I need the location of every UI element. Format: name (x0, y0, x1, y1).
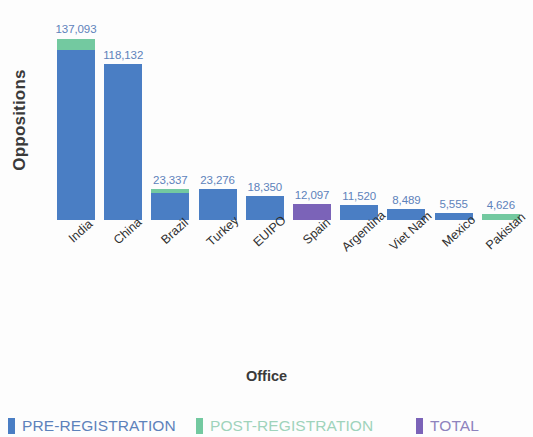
legend-item-pre[interactable]: PRE-REGISTRATION (8, 414, 176, 437)
x-tick-viet-nam: Viet Nam (387, 222, 425, 272)
x-tick-china: China (104, 222, 142, 272)
x-tick-label: Spain (300, 215, 333, 247)
chart-page: Oppositions 137,093118,13223,33723,27618… (0, 0, 533, 437)
x-tick-pakistan: Pakistan (482, 222, 520, 272)
y-axis-title: Oppositions (6, 45, 34, 195)
chart-legend: PRE-REGISTRATIONPOST-REGISTRATIONTOTAL (0, 414, 533, 437)
bar-segment-pre (151, 193, 189, 220)
bar-value-label: 4,626 (466, 199, 533, 211)
bar-mexico[interactable]: 5,555 (435, 8, 473, 220)
x-tick-india: India (57, 222, 95, 272)
legend-label: POST-REGISTRATION (210, 417, 373, 435)
bar-segment-pre (57, 50, 95, 220)
bar-value-label: 118,132 (88, 49, 158, 61)
x-tick-mexico: Mexico (435, 222, 473, 272)
legend-swatch-icon (416, 418, 423, 434)
x-tick-brazil: Brazil (151, 222, 189, 272)
legend-swatch-icon (8, 418, 15, 434)
bar-value-label: 137,093 (41, 23, 111, 35)
legend-label: PRE-REGISTRATION (22, 417, 176, 435)
bar-viet-nam[interactable]: 8,489 (387, 8, 425, 220)
bar-stack (104, 64, 142, 220)
x-tick-argentina: Argentina (340, 222, 378, 272)
bar-stack (57, 38, 95, 220)
legend-item-total[interactable]: TOTAL (416, 414, 479, 437)
x-axis-title: Office (0, 368, 533, 384)
x-tick-label: India (66, 217, 96, 246)
x-tick-turkey: Turkey (199, 222, 237, 272)
legend-label: TOTAL (430, 417, 479, 435)
bar-spain[interactable]: 12,097 (293, 8, 331, 220)
x-axis-tick-labels: IndiaChinaBrazilTurkeyEUIPOSpainArgentin… (45, 220, 533, 275)
x-tick-euipo: EUIPO (246, 222, 284, 272)
x-tick-label: Brazil (159, 216, 192, 247)
bar-india[interactable]: 137,093 (57, 8, 95, 220)
bar-stack (151, 189, 189, 220)
bar-brazil[interactable]: 23,337 (151, 8, 189, 220)
y-axis-title-text: Oppositions (10, 69, 30, 170)
bar-segment-pre (104, 64, 142, 220)
bar-pakistan[interactable]: 4,626 (482, 8, 520, 220)
x-tick-spain: Spain (293, 222, 331, 272)
legend-swatch-icon (196, 418, 203, 434)
x-tick-label: China (111, 215, 145, 247)
bar-argentina[interactable]: 11,520 (340, 8, 378, 220)
plot-area: 137,093118,13223,33723,27618,35012,09711… (45, 8, 533, 220)
legend-item-post[interactable]: POST-REGISTRATION (196, 414, 373, 437)
bar-china[interactable]: 118,132 (104, 8, 142, 220)
